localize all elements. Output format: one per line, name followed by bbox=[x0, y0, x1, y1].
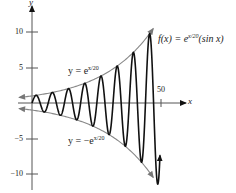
y-tick-label-neg10: −10 bbox=[3, 170, 23, 178]
upper-envelope-label: y = ex/20 bbox=[68, 65, 99, 76]
x-axis-label: x bbox=[188, 97, 192, 106]
y-tick-label-neg5: −5 bbox=[3, 135, 23, 143]
plot-area bbox=[0, 0, 236, 193]
lower-envelope-label: y = −ex/20 bbox=[68, 135, 104, 146]
function-equation-label: f(x) = ex/20(sin x) bbox=[158, 33, 224, 44]
y-tick-label-10: 10 bbox=[3, 28, 23, 36]
y-tick-label-5: 5 bbox=[3, 64, 23, 72]
y-axis-label: y bbox=[29, 0, 33, 7]
x-tick-label-50: 50 bbox=[157, 86, 165, 94]
function-curve bbox=[32, 34, 160, 184]
